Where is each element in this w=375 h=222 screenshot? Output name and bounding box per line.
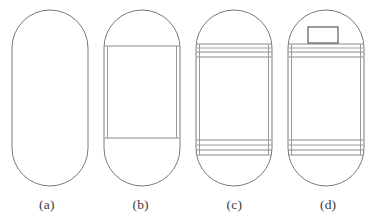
panel-b: [104, 10, 180, 186]
panel-c: [196, 10, 272, 186]
figure-root: (a) (b) (c) (d): [0, 0, 375, 222]
caption-b: (b): [94, 193, 188, 217]
panel-a: [12, 10, 88, 186]
capsule-outline-b: [104, 10, 180, 186]
capsule-outline-c: [196, 10, 272, 186]
nozzle-fitting-rectangle: [308, 27, 338, 43]
caption-d: (d): [281, 193, 375, 217]
panel-d: [288, 10, 364, 186]
caption-a: (a): [0, 193, 94, 217]
capsule-outline-a: [12, 10, 88, 186]
caption-c: (c): [188, 193, 282, 217]
caption-row: (a) (b) (c) (d): [0, 193, 375, 217]
capsule-diagram-svg: [0, 0, 375, 222]
